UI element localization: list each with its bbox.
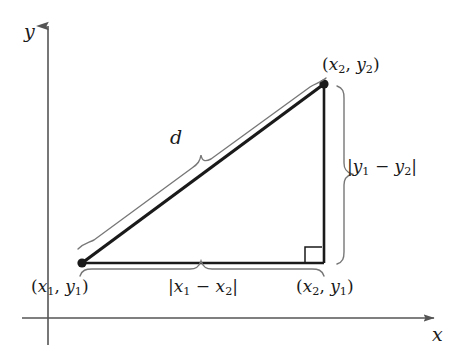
label-distance-d: d (170, 128, 182, 147)
triangle-hypotenuse (82, 84, 324, 263)
label-vertical-leg-length: |y1 − y2| (347, 158, 417, 177)
brace-hypotenuse (78, 78, 326, 249)
label-horizontal-leg-length: |x1 − x2| (168, 278, 238, 297)
vertex-dot-point1 (77, 258, 86, 267)
y-axis-label: y (24, 22, 35, 41)
label-point-x1-y1: (x1, y1) (31, 278, 89, 297)
right-angle-marker (305, 247, 322, 263)
label-point-x2-y1: (x2, y1) (296, 278, 354, 297)
triangle-group (82, 84, 324, 263)
label-point-x2-y2: (x2, y2) (322, 56, 380, 75)
distance-formula-figure: y x (x2, y2) (x1, y1) (x2, y1) |y1 − y2|… (0, 0, 458, 353)
x-axis-label: x (432, 325, 443, 344)
